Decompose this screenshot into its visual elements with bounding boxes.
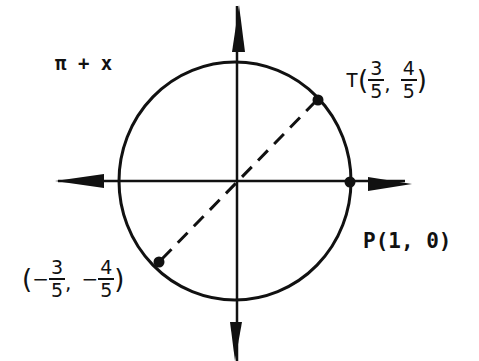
open-paren: ( <box>358 65 368 95</box>
x-axis-right-arrow-icon <box>368 177 412 191</box>
point-P-label: P(1, 0) <box>363 229 452 253</box>
point-P-marker <box>345 177 356 188</box>
angle-label: π + x <box>55 52 112 74</box>
close-paren: ) <box>114 264 124 294</box>
open-paren: ( <box>22 264 32 294</box>
point-opposite-x-fraction: 35 <box>49 258 65 300</box>
y-axis-up-arrow-icon <box>232 5 245 52</box>
point-T-name: T <box>346 68 358 92</box>
comma: , <box>65 271 71 295</box>
point-opposite-label: (−35,−45) <box>22 258 124 300</box>
point-T-y-fraction: 45 <box>401 59 417 101</box>
close-paren: ) <box>417 65 427 95</box>
point-T-marker <box>313 95 324 106</box>
point-T-label: T(35,45) <box>346 59 427 101</box>
point-opposite-marker <box>154 257 165 268</box>
y-axis-down-arrow-icon <box>230 322 242 361</box>
minus-sign: − <box>81 267 98 291</box>
point-T-x-fraction: 35 <box>368 59 384 101</box>
minus-sign: − <box>32 267 49 291</box>
x-axis-left-arrow-icon <box>55 174 104 188</box>
point-opposite-y-fraction: 45 <box>98 258 114 300</box>
comma: , <box>384 72 390 96</box>
